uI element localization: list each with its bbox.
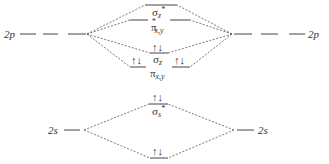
sigma-s-star-orbital: ↑↓ σs*: [149, 91, 168, 119]
pi-xy-label: πx,y: [150, 67, 165, 81]
sigma-s-orbital: ↑↓: [150, 145, 168, 158]
sigma-z-orbital: ↑↓ σz: [150, 41, 168, 67]
sigma-z-electrons: ↑↓: [152, 41, 163, 53]
left-2s-group: 2s: [48, 124, 80, 136]
left-2p-label: 2p: [4, 28, 16, 40]
pi-xy-electrons-left: ↑↓: [131, 54, 142, 66]
right-2s-group: 2s: [237, 124, 268, 136]
right-2p-group: 2p: [234, 28, 320, 40]
right-2s-label: 2s: [258, 124, 268, 136]
pi-xy-electrons-right: ↑↓: [174, 54, 185, 66]
left-2s-label: 2s: [48, 124, 58, 136]
sigma-z-label: σz: [153, 53, 163, 67]
sigma-s-star-electrons: ↑↓: [152, 91, 163, 103]
sigma-s-electrons: ↑↓: [152, 145, 163, 157]
mo-diagram: 2p 2p 2s 2s σz*: [0, 0, 329, 164]
sigma-z-star-orbital: σz*: [145, 5, 177, 20]
sigma-s-star-label: σs*: [152, 104, 165, 119]
left-2p-group: 2p: [4, 28, 86, 40]
right-2p-label: 2p: [308, 28, 320, 40]
